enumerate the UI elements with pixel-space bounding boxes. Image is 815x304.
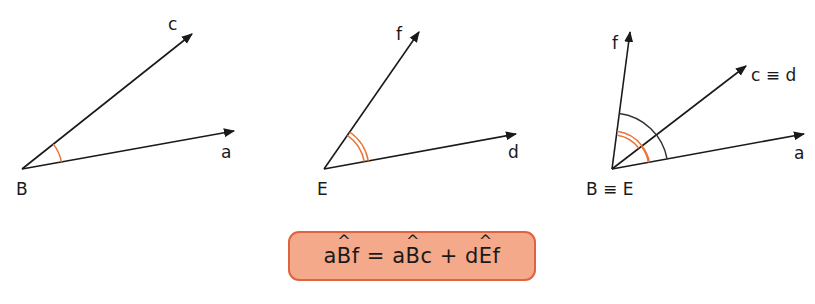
angle-arc-double-orange-inner [347, 135, 364, 161]
label-vertex-B-equiv-E: B ≡ E [586, 181, 633, 198]
figure-angle-sum [612, 32, 804, 169]
label-vertex-E: E [317, 181, 328, 198]
formula-t1-a: a [392, 244, 405, 268]
formula-lhs-f: f [352, 244, 360, 268]
figure-angle-aBc [22, 34, 234, 169]
formula-t2-d: d [465, 244, 479, 268]
label-a: a [221, 144, 231, 161]
figure-angle-dEf [324, 32, 516, 169]
label-c-equiv-d: c ≡ d [751, 67, 796, 84]
formula-lhs-a: a [323, 244, 336, 268]
formula-box: aBf = aBc + dEf [288, 231, 536, 281]
ray-Bc [22, 34, 192, 169]
formula-plus: + [440, 244, 458, 268]
label-d: d [508, 144, 519, 161]
angle-arc-dark-aBf [619, 114, 667, 160]
ray-Ba [22, 131, 234, 169]
formula-angle-sum: aBf = aBc + dEf [323, 244, 500, 268]
ray-c-d [612, 66, 746, 169]
formula-t2-vertex: E [479, 244, 493, 268]
angle-arc-double-orange-dEf-inner [618, 135, 639, 148]
label-c: c [168, 16, 177, 33]
label-f: f [396, 26, 402, 43]
ray-Ef [324, 32, 419, 169]
formula-lhs-vertex: B [337, 244, 352, 268]
angle-arc-double-orange-dEf-outer [617, 131, 642, 146]
ray-a [612, 134, 804, 169]
formula-t2-f: f [493, 244, 501, 268]
angle-arc-single-orange [53, 144, 61, 162]
label-f-sum: f [612, 35, 618, 52]
formula-t1-c: c [420, 244, 432, 268]
formula-t1-vertex: B [406, 244, 421, 268]
label-vertex-B: B [16, 181, 28, 198]
label-a-sum: a [794, 145, 804, 162]
formula-equals: = [367, 244, 385, 268]
